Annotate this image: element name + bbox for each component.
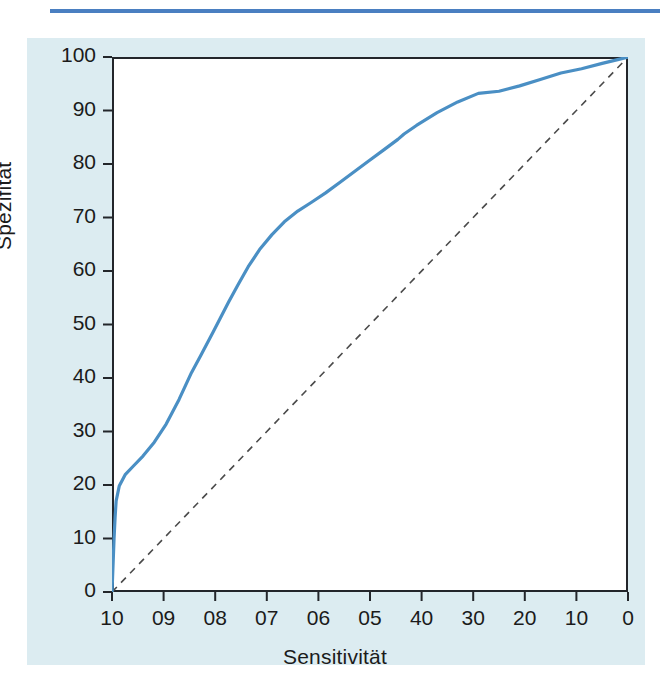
roc-chart-svg <box>112 57 628 592</box>
y-tick-label: 70 <box>44 204 96 228</box>
y-tick-label: 80 <box>44 150 96 174</box>
x-tick-label: 09 <box>136 606 192 630</box>
x-tick-label: 10 <box>84 606 140 630</box>
x-tick-label: 08 <box>187 606 243 630</box>
y-tick-label: 90 <box>44 97 96 121</box>
y-tick-label: 100 <box>44 43 96 67</box>
y-tick-label: 0 <box>44 578 96 602</box>
y-axis-title: Spezifität <box>0 162 16 250</box>
y-tick-label: 60 <box>44 257 96 281</box>
y-tick-label: 10 <box>44 525 96 549</box>
plot-area <box>112 57 628 592</box>
x-tick-label: 05 <box>342 606 398 630</box>
y-tick-label: 30 <box>44 418 96 442</box>
x-tick-label: 10 <box>548 606 604 630</box>
x-tick-label: 07 <box>239 606 295 630</box>
y-tick-label: 20 <box>44 471 96 495</box>
y-tick-label: 50 <box>44 311 96 335</box>
y-tick-label: 40 <box>44 364 96 388</box>
x-tick-label: 06 <box>290 606 346 630</box>
header-rule <box>50 9 660 13</box>
x-axis-title: Sensitivität <box>0 645 670 669</box>
x-tick-label: 0 <box>600 606 656 630</box>
x-tick-label: 40 <box>394 606 450 630</box>
x-tick-label: 20 <box>497 606 553 630</box>
x-tick-label: 30 <box>445 606 501 630</box>
